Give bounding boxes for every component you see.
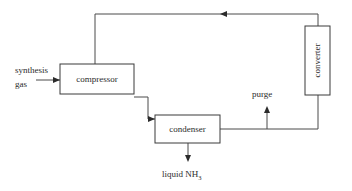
recycle-stream-line <box>95 14 318 64</box>
product-arrow-icon <box>185 155 191 162</box>
feed-label-line1: synthesis <box>15 65 49 75</box>
purge-arrow-icon <box>264 106 270 113</box>
purge-label: purge <box>252 89 272 99</box>
recycle-arrow-icon <box>220 11 227 17</box>
converter-label: converter <box>312 44 322 78</box>
process-flow-diagram: compressor condenser converter synthesis… <box>0 0 352 191</box>
compressor-label: compressor <box>76 74 118 84</box>
product-label-subscript: 3 <box>198 174 201 181</box>
compressor-to-condenser-line <box>134 97 155 119</box>
feed-arrow-icon <box>53 77 60 83</box>
condenser-label: condenser <box>169 124 205 134</box>
flow-canvas: compressor condenser converter synthesis… <box>0 0 352 191</box>
product-label: liquid NH3 <box>162 169 202 181</box>
feed-label-line2: gas <box>15 79 27 89</box>
product-label-text: liquid NH <box>162 169 199 179</box>
compressor-to-condenser-arrow-icon <box>148 116 155 122</box>
